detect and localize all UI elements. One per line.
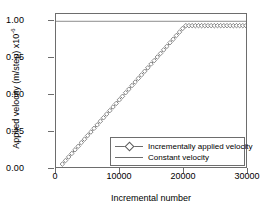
- x-tick-label: 10000: [99, 172, 139, 181]
- legend-label-constant: Constant velocity: [143, 153, 209, 162]
- y-tick-label: 0.25: [0, 127, 24, 136]
- y-tick-label: 0.00: [0, 164, 24, 173]
- y-tick-mark: [48, 168, 54, 169]
- x-axis-title: Incremental number: [55, 193, 247, 203]
- y-tick-label: 0.75: [0, 53, 24, 62]
- legend-key-constant: [115, 153, 143, 162]
- y-tick-mark: [48, 57, 54, 58]
- legend-key-incremental: [115, 142, 143, 151]
- y-tick-label: 1.00: [0, 16, 24, 25]
- y-tick-label: 0.50: [0, 90, 24, 99]
- chart-legend: Incrementally applied velocity Constant …: [110, 137, 245, 166]
- y-tick-mark: [48, 131, 54, 132]
- y-tick-mark: [48, 94, 54, 95]
- x-tick-label: 30000: [227, 172, 267, 181]
- diamond-marker-icon: [125, 142, 135, 152]
- legend-label-incremental: Incrementally applied velocity: [143, 142, 253, 151]
- x-tick-label: 0: [35, 172, 75, 181]
- x-tick-mark: [119, 168, 120, 173]
- x-tick-label: 20000: [163, 172, 203, 181]
- y-axis-exponent: -6: [10, 28, 16, 33]
- x-tick-mark: [247, 168, 248, 173]
- chart-figure: Applied velocity (m/step) x10-6 0.000.25…: [0, 0, 274, 215]
- legend-item-incremental: Incrementally applied velocity: [115, 141, 240, 152]
- legend-line-icon: [115, 157, 143, 158]
- diamond-marker-icon: [244, 23, 246, 28]
- x-tick-mark: [55, 168, 56, 173]
- y-tick-mark: [48, 20, 54, 21]
- legend-item-constant: Constant velocity: [115, 152, 240, 163]
- x-tick-mark: [183, 168, 184, 173]
